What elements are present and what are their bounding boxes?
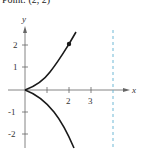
x-tick-label: 3 [88, 96, 93, 106]
x-axis-label: x [131, 85, 136, 95]
y-axis-arrow-icon [23, 26, 27, 33]
x-tick-label: 2 [66, 96, 71, 106]
curve-upper-branch [25, 32, 76, 90]
y-tick-label: 2 [13, 40, 18, 50]
y-tick-label: -1 [8, 107, 16, 117]
y-tick-label: -2 [8, 129, 16, 139]
plot-area: x y 1 2 3 2 1 -1 -2 [0, 0, 141, 152]
y-tick-label: 1 [13, 62, 18, 72]
x-axis-arrow-icon [123, 88, 130, 92]
point-marker [67, 42, 71, 46]
y-axis-label: y [21, 14, 26, 24]
